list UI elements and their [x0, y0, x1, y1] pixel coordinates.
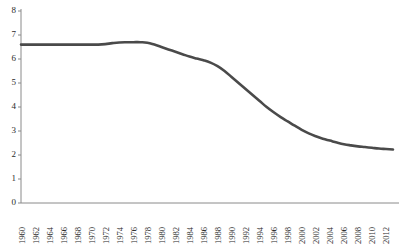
x-axis-tick-label: 1968 — [74, 227, 83, 244]
line-chart: 012345678 196019621964196619681970197219… — [0, 0, 403, 247]
axes-group — [18, 9, 399, 203]
x-axis-tick-label: 2008 — [354, 227, 363, 244]
x-axis-tick-label: 1976 — [130, 227, 139, 244]
x-axis-tick-label: 2006 — [340, 227, 349, 244]
x-axis-tick-label: 1998 — [284, 227, 293, 244]
x-axis-tick-label: 1984 — [186, 227, 195, 244]
x-axis-tick-label: 1974 — [116, 227, 125, 244]
data-series-line — [21, 42, 393, 149]
x-axis-tick-label: 1972 — [102, 227, 111, 244]
x-axis-tick-label: 2010 — [368, 227, 377, 244]
x-axis-tick-label: 1986 — [200, 227, 209, 244]
x-axis-tick-label: 1966 — [60, 227, 69, 244]
x-axis-tick-label: 2004 — [326, 227, 335, 244]
y-axis-tick-label: 8 — [2, 6, 16, 15]
x-axis-tick-label: 2002 — [312, 227, 321, 244]
x-axis-tick-label: 1990 — [228, 227, 237, 244]
x-axis-tick-label: 1964 — [46, 227, 55, 244]
y-axis-tick-label: 7 — [2, 30, 16, 39]
y-axis-tick-label: 0 — [2, 198, 16, 207]
chart-plot-area — [0, 0, 403, 247]
x-axis-tick-label: 1978 — [144, 227, 153, 244]
x-axis-tick-label: 1996 — [270, 227, 279, 244]
x-axis-tick-label: 1982 — [172, 227, 181, 244]
y-axis-tick-label: 6 — [2, 54, 16, 63]
x-axis-tick-label: 2012 — [382, 227, 391, 244]
x-axis-tick-label: 1960 — [18, 227, 27, 244]
x-axis-tick-label: 1994 — [256, 227, 265, 244]
x-axis-tick-label: 2000 — [298, 227, 307, 244]
y-axis-tick-label: 4 — [2, 102, 16, 111]
x-axis-tick-label: 1980 — [158, 227, 167, 244]
y-axis-tick-label: 5 — [2, 78, 16, 87]
y-axis-tick-label: 2 — [2, 150, 16, 159]
x-axis-tick-label: 1992 — [242, 227, 251, 244]
x-axis-tick-label: 1970 — [88, 227, 97, 244]
y-axis-tick-label: 1 — [2, 174, 16, 183]
x-axis-tick-label: 1988 — [214, 227, 223, 244]
y-axis-tick-label: 3 — [2, 126, 16, 135]
x-axis-tick-label: 1962 — [32, 227, 41, 244]
